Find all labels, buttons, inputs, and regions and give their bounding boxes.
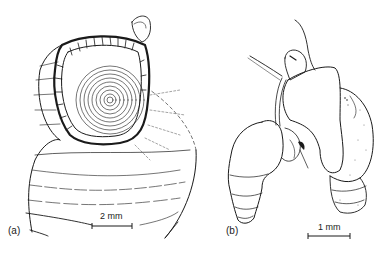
panel-b: 1 mm (b) — [190, 0, 390, 254]
snail-pair-drawing — [190, 0, 390, 254]
scale-bar-b — [308, 233, 350, 239]
panel-a: 2 mm (a) — [0, 0, 200, 254]
panel-b-label: (b) — [226, 226, 238, 236]
scale-bar-b-label: 1 mm — [318, 223, 341, 232]
scale-bar-a-label: 2 mm — [100, 212, 123, 221]
panel-a-label: (a) — [8, 226, 20, 236]
scale-bar-a — [92, 223, 132, 229]
figure: 2 mm (a) — [0, 0, 390, 254]
